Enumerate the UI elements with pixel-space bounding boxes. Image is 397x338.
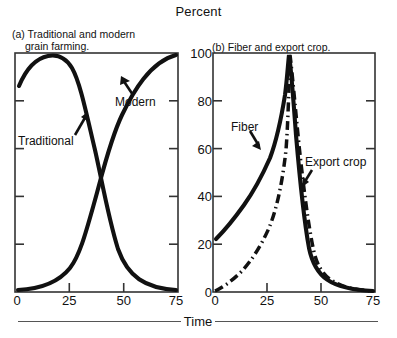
y-tick-100: 100 (178, 46, 212, 61)
bottom-axis-label-group: Time (18, 312, 378, 330)
y-tick-20: 20 (178, 237, 212, 252)
bottom-axis-label: Time (181, 314, 215, 329)
panel-a-y-ticks (15, 101, 24, 244)
y-tick-40: 40 (178, 189, 212, 204)
label-export-crop: Export crop (305, 155, 366, 169)
panel-a-y-ticks-right (169, 101, 178, 244)
modern-arrow (120, 76, 133, 95)
panel-b-x-tick-50: 50 (314, 293, 328, 308)
panel-a-x-tick-25: 25 (62, 293, 76, 308)
label-modern: Modern (115, 95, 156, 109)
y-tick-60: 60 (178, 141, 212, 156)
time-rule-left (18, 321, 181, 322)
panel-b-y-ticks (213, 101, 222, 244)
panel-a-x-tick-75: 75 (169, 293, 183, 308)
panel-b-x-tick-75: 75 (366, 293, 380, 308)
panel-a-x-tick-0: 0 (13, 293, 20, 308)
panel-a-x-ticks (69, 283, 123, 292)
panel-a-x-axis-labels: 0 25 50 75 (15, 293, 178, 309)
shared-y-axis-labels: 100 80 60 40 20 0 (178, 48, 212, 300)
panel-b-x-ticks (267, 283, 321, 292)
panel-b-x-axis-labels: 0 25 50 75 (213, 293, 375, 309)
panel-a-frame (15, 53, 178, 292)
panel-b-x-tick-0: 0 (211, 293, 218, 308)
time-rule-right (215, 321, 378, 322)
panel-a-x-tick-50: 50 (116, 293, 130, 308)
panel-b-x-tick-25: 25 (260, 293, 274, 308)
panel-b-y-ticks-right (366, 101, 375, 244)
curve-modern (18, 55, 176, 290)
curve-traditional (19, 56, 176, 291)
label-fiber: Fiber (231, 120, 258, 134)
curve-fiber (216, 55, 373, 291)
y-tick-80: 80 (178, 93, 212, 108)
figure-root: Percent (a) Traditional and modern grain… (0, 0, 397, 338)
label-traditional: Traditional (18, 134, 74, 148)
